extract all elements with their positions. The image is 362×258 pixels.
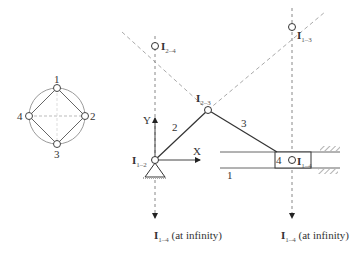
node-4: [26, 113, 33, 120]
ground-hatch-top: [320, 146, 340, 151]
node-3: [54, 141, 61, 148]
y-axis-label: Y: [143, 114, 151, 126]
label-I14-infinity-right: I1–4 (at infinity): [281, 229, 349, 244]
joint-I12: [152, 157, 159, 164]
label-I23: I2–3: [196, 92, 211, 107]
node-label-4: 4: [17, 110, 23, 122]
node-label-2: 2: [90, 110, 96, 122]
node-label-1: 1: [54, 73, 60, 85]
node-1: [54, 85, 61, 92]
mechanism: Y X 1 4 2 3 I1–2 I2–3 I2–4: [122, 8, 349, 244]
ground-pivot-triangle: [145, 163, 165, 177]
crank-link-label: 2: [172, 121, 178, 133]
slider-link-label: 4: [276, 154, 282, 166]
line-I23-I13: [208, 12, 325, 110]
ground-link-label: 1: [227, 169, 233, 181]
label-I24: I2–4: [161, 40, 176, 55]
x-axis-label: X: [193, 145, 201, 157]
node-2: [82, 113, 89, 120]
label-I14-infinity-left: I1–4 (at infinity): [154, 229, 222, 244]
label-I13: I1–3: [297, 29, 312, 44]
joint-I14: [289, 157, 296, 164]
label-I12: I1–2: [132, 154, 147, 169]
instant-centers-diagram: 1 2 3 4 Y X 1 4 2 3: [0, 0, 362, 258]
node-label-3: 3: [54, 148, 60, 160]
center-I24: [152, 43, 159, 50]
coupler-link-label: 3: [241, 117, 247, 129]
joint-I23: [205, 107, 212, 114]
circle-diagram: 1 2 3 4: [17, 73, 96, 160]
center-I13: [289, 24, 296, 31]
ground-hatch-bottom: [318, 169, 338, 174]
